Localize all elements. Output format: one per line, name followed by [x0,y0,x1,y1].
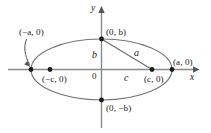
vertex-left-label: (−a, 0) [19,28,44,37]
origin-label: 0 [92,72,97,81]
segment-a-line [102,39,153,70]
ellipse-figure: x y 0 (−a, 0) (a, 0) (0, b) (0, −b) (−c,… [0,0,211,133]
focus-left-label: (−c, 0) [42,75,67,84]
vertex-right-label: (a, 0) [173,58,193,67]
x-axis-label: x [190,73,194,83]
point-focus-right [150,67,155,72]
segment-a-label: a [134,48,139,58]
segment-b-label: b [92,50,97,60]
y-axis-label: y [91,4,95,14]
segment-c-label: c [124,73,129,83]
focus-right-label: (c, 0) [144,75,164,84]
covertex-top-label: (0, b) [106,28,126,37]
point-vertex-right [170,67,175,72]
vertex-left-leader-arrow [24,39,30,67]
y-axis [98,6,104,128]
point-covertex-bottom [99,98,104,103]
point-covertex-top [99,37,104,42]
point-focus-left [48,67,53,72]
point-vertex-left [29,67,34,72]
covertex-bottom-label: (0, −b) [106,104,131,113]
